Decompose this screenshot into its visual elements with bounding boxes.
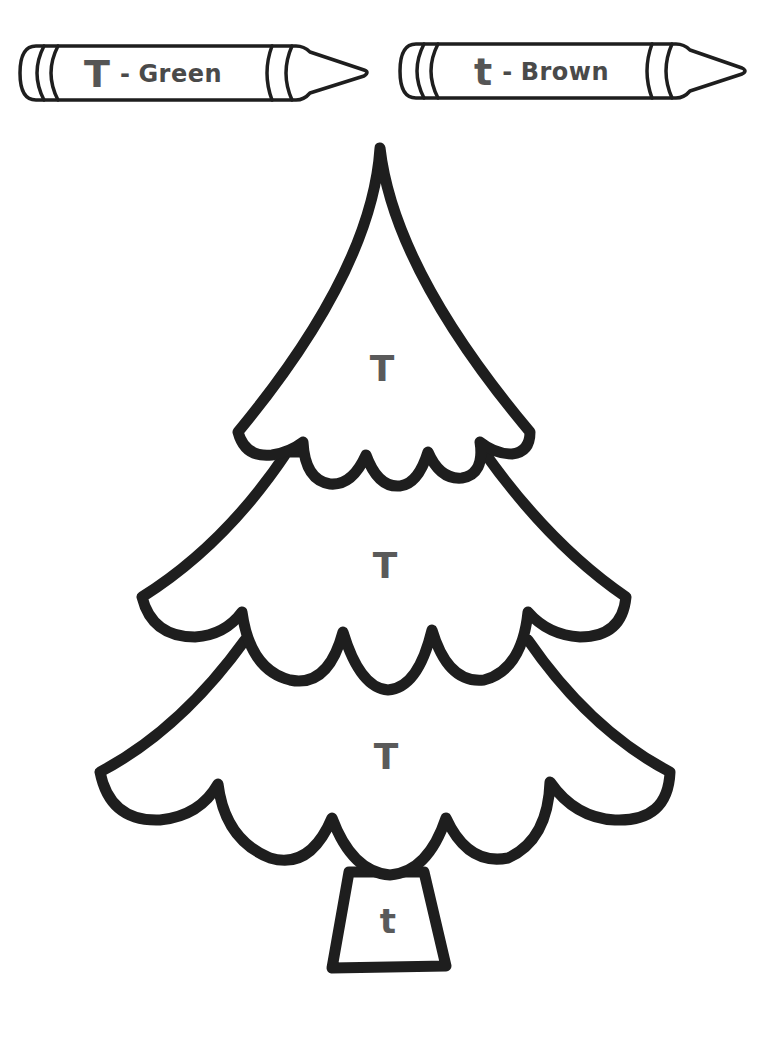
tree-top-tier-shape (238, 148, 530, 486)
key-color-brown: Brown (521, 60, 609, 84)
key-color-green: Green (138, 62, 222, 86)
key-separator: - (502, 60, 512, 84)
worksheet-artwork (0, 0, 772, 1040)
region-letter-bottom-tier: T (374, 739, 399, 775)
crayon-brown-label: t - Brown (474, 53, 609, 91)
region-letter-trunk: t (380, 904, 396, 938)
key-letter-uppercase-t: T (84, 55, 110, 93)
crayon-green-label: T - Green (84, 55, 222, 93)
region-letter-top-tier: T (370, 351, 395, 387)
key-letter-lowercase-t: t (474, 53, 492, 91)
key-separator: - (120, 62, 130, 86)
coloring-worksheet: T - Green t - Brown T T T t (0, 0, 772, 1040)
region-letter-middle-tier: T (373, 548, 398, 584)
